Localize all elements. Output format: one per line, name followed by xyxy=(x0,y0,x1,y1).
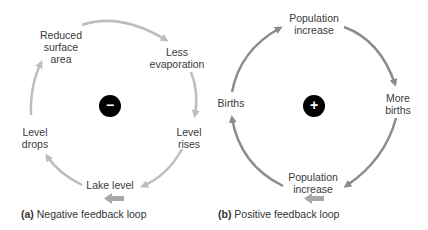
node-line: Population xyxy=(289,12,339,24)
node-level-rises: Level rises xyxy=(176,126,201,150)
node-population-increase-top: Population increase xyxy=(289,12,339,36)
node-line: Lake level xyxy=(86,179,133,191)
caption-text: Negative feedback loop xyxy=(34,208,147,220)
node-line: drops xyxy=(22,138,48,150)
node-line: Population xyxy=(288,171,338,183)
node-line: surface xyxy=(40,41,82,53)
node-more-births: More births xyxy=(385,92,411,116)
node-line: Less xyxy=(150,46,205,58)
negative-sign-badge: − xyxy=(99,95,121,117)
node-line: increase xyxy=(288,183,338,195)
node-line: Level xyxy=(176,126,201,138)
node-population-increase-bottom: Population increase xyxy=(288,171,338,195)
caption-text: Positive feedback loop xyxy=(231,208,339,220)
node-line: evaporation xyxy=(150,58,205,70)
node-line: Reduced xyxy=(40,29,82,41)
node-less-evaporation: Less evaporation xyxy=(150,46,205,70)
node-line: increase xyxy=(289,24,339,36)
node-line: births xyxy=(385,104,411,116)
caption-tag: (b) xyxy=(218,208,231,220)
node-line: Births xyxy=(218,97,245,109)
caption-tag: (a) xyxy=(21,208,34,220)
node-line: area xyxy=(40,53,82,65)
node-line: Level xyxy=(22,126,48,138)
node-reduced-surface-area: Reduced surface area xyxy=(40,29,82,65)
node-births: Births xyxy=(218,97,245,109)
positive-loop-caption: (b) Positive feedback loop xyxy=(218,208,339,220)
negative-loop-caption: (a) Negative feedback loop xyxy=(21,208,147,220)
node-lake-level: Lake level xyxy=(86,179,133,191)
node-line: rises xyxy=(176,138,201,150)
node-line: More xyxy=(385,92,411,104)
negative-flow-arrow xyxy=(104,193,124,204)
node-level-drops: Level drops xyxy=(22,126,48,150)
positive-sign-badge: + xyxy=(303,95,325,117)
